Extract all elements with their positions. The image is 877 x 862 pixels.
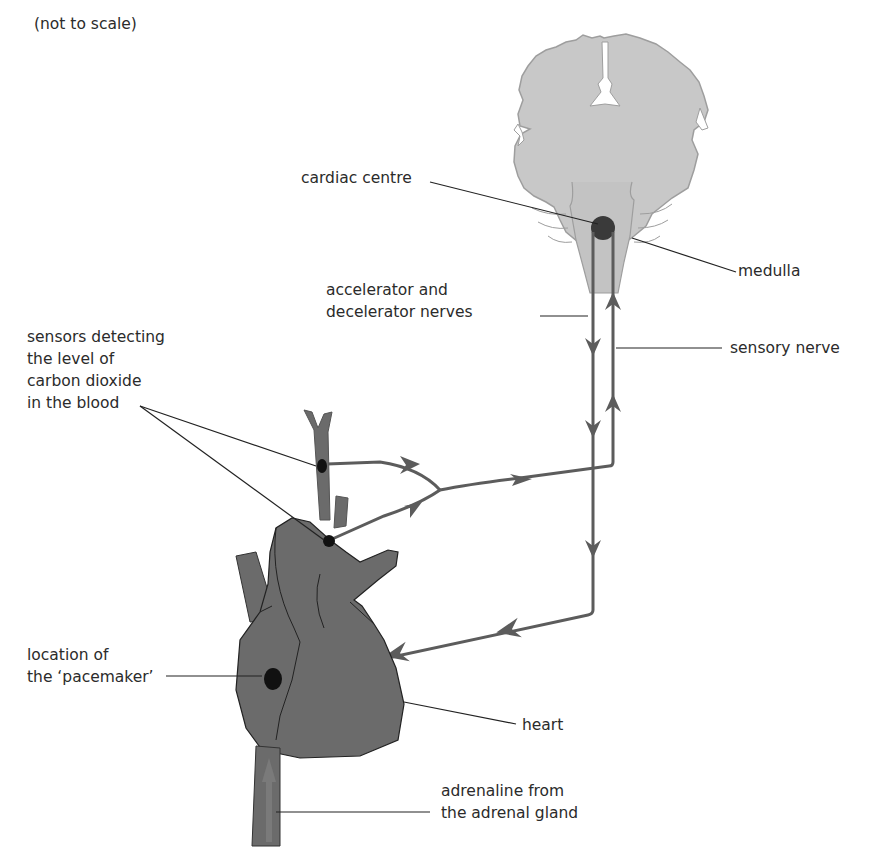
label-adrenaline: adrenaline from the adrenal gland: [441, 780, 578, 824]
pacemaker-dot: [264, 668, 282, 690]
leader-lines: [140, 182, 736, 812]
label-cardiac-centre: cardiac centre: [301, 167, 412, 189]
aortic-sensor-dot: [323, 535, 335, 547]
label-accelerator-decelerator-nerves: accelerator and decelerator nerves: [326, 279, 473, 323]
diagram-canvas: (not to scale) cardiac centre medulla ac…: [0, 0, 877, 862]
label-pacemaker-location: location of the ‘pacemaker’: [27, 644, 154, 688]
heart: [236, 410, 404, 846]
carotid-sensor-dot: [317, 459, 327, 473]
brain: [514, 34, 708, 293]
label-heart: heart: [522, 714, 563, 736]
label-medulla: medulla: [738, 260, 800, 282]
cardiac-centre-dot: [591, 216, 615, 240]
not-to-scale-note: (not to scale): [34, 13, 137, 35]
label-sensory-nerve: sensory nerve: [730, 337, 840, 359]
label-co2-sensors: sensors detecting the level of carbon di…: [27, 326, 165, 414]
